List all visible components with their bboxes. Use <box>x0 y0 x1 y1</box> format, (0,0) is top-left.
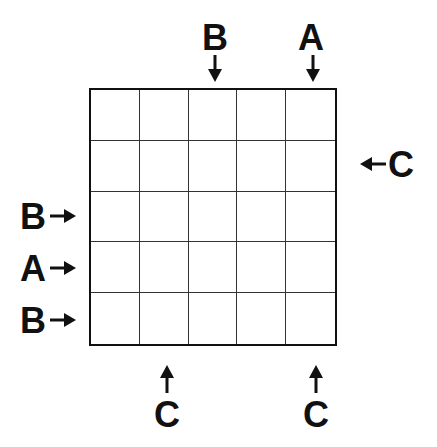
grid-cell-r5c1[interactable] <box>91 293 140 344</box>
clue-top-col5: A <box>298 20 324 56</box>
clue-right-row2: C <box>388 147 414 183</box>
grid-cell-r5c5[interactable] <box>286 293 335 344</box>
clue-left-row5: B <box>20 303 46 339</box>
arrow-right-icon <box>50 312 76 328</box>
grid-cell-r4c4[interactable] <box>237 242 286 293</box>
arrow-down-icon <box>305 55 321 83</box>
grid-cell-r3c4[interactable] <box>237 192 286 243</box>
clue-left-row3: B <box>20 199 46 235</box>
arrow-down-icon <box>207 55 223 83</box>
arrow-right-icon <box>50 208 76 224</box>
grid-cell-r2c3[interactable] <box>189 141 238 192</box>
grid-cell-r2c4[interactable] <box>237 141 286 192</box>
grid-cell-r5c2[interactable] <box>140 293 189 344</box>
grid-cell-r4c1[interactable] <box>91 242 140 293</box>
grid-cell-r1c4[interactable] <box>237 90 286 141</box>
grid-cell-r1c3[interactable] <box>189 90 238 141</box>
arrow-left-icon <box>360 156 386 172</box>
grid-cell-r5c3[interactable] <box>189 293 238 344</box>
grid-cell-r1c5[interactable] <box>286 90 335 141</box>
grid-cell-r3c5[interactable] <box>286 192 335 243</box>
puzzle-grid <box>89 88 337 346</box>
grid-cell-r2c1[interactable] <box>91 141 140 192</box>
arrow-right-icon <box>50 260 76 276</box>
grid-cell-r1c2[interactable] <box>140 90 189 141</box>
grid-cell-r4c5[interactable] <box>286 242 335 293</box>
grid-cell-r3c3[interactable] <box>189 192 238 243</box>
grid-cell-r4c3[interactable] <box>189 242 238 293</box>
clue-top-col3: B <box>202 20 228 56</box>
grid-cell-r2c5[interactable] <box>286 141 335 192</box>
grid-cell-r3c1[interactable] <box>91 192 140 243</box>
grid-cell-r4c2[interactable] <box>140 242 189 293</box>
arrow-up-icon <box>308 365 324 393</box>
clue-left-row4: A <box>20 251 46 287</box>
grid-cell-r5c4[interactable] <box>237 293 286 344</box>
grid-cell-r3c2[interactable] <box>140 192 189 243</box>
clue-bottom-col5: C <box>303 397 329 433</box>
grid-cell-r2c2[interactable] <box>140 141 189 192</box>
clue-bottom-col2: C <box>154 397 180 433</box>
arrow-up-icon <box>159 365 175 393</box>
grid-cell-r1c1[interactable] <box>91 90 140 141</box>
